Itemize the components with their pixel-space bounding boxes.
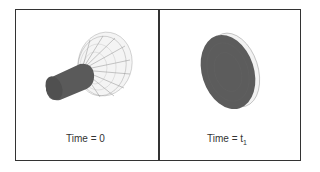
- caption-main: Time = t: [207, 133, 243, 144]
- cylinder-disc-shape: [40, 30, 140, 110]
- caption-subscript: 1: [243, 139, 247, 146]
- panel-divider: [158, 9, 160, 161]
- caption-time-0: Time = 0: [66, 133, 105, 144]
- flattened-disc-shape: [190, 25, 270, 120]
- caption-time-t1: Time = t1: [207, 133, 247, 146]
